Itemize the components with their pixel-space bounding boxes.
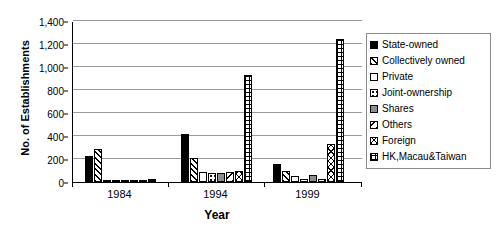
gridline (73, 20, 362, 21)
bar (318, 179, 326, 182)
bar (327, 144, 335, 182)
bar (139, 180, 147, 182)
legend-swatch-icon (370, 121, 378, 129)
y-axis-tick-mark (64, 91, 68, 92)
legend-item-1[interactable]: Collectively owned (370, 53, 488, 69)
legend-item-label: Others (382, 120, 412, 130)
legend-item-label: Shares (382, 104, 414, 114)
bar (199, 172, 207, 182)
x-axis-tick-label: 1994 (181, 188, 251, 200)
legend-swatch-icon (370, 153, 378, 161)
bar (94, 149, 102, 182)
bar-group-1994 (181, 22, 261, 182)
legend-swatch-icon (370, 105, 378, 113)
bar (300, 179, 308, 182)
bar-group-1999 (273, 22, 353, 182)
bar (226, 172, 234, 182)
bar (190, 158, 198, 182)
y-axis-tick-label: 1,000 (39, 63, 64, 74)
x-axis-title: Year (72, 208, 362, 222)
x-axis-tick-mark (168, 183, 169, 187)
y-axis-tick-label: 800 (47, 86, 64, 97)
bar (148, 179, 156, 182)
y-axis-tick-labels: 02004006008001,0001,2001,400 (26, 0, 68, 241)
legend-item-label: Foreign (382, 136, 416, 146)
bar-group-1984 (85, 22, 165, 182)
y-axis-tick-mark (64, 137, 68, 138)
bar (309, 175, 317, 182)
legend-item-label: Collectively owned (382, 56, 465, 66)
legend-item-3[interactable]: Joint-ownership (370, 85, 488, 101)
legend-item-5[interactable]: Others (370, 117, 488, 133)
legend-swatch-icon (370, 137, 378, 145)
bar (273, 164, 281, 182)
legend-swatch-icon (370, 57, 378, 65)
y-axis-tick-mark (64, 68, 68, 69)
y-axis-tick-label: 1,400 (39, 17, 64, 28)
bar (103, 180, 111, 182)
bar (244, 75, 252, 182)
plot-area (72, 22, 362, 183)
bar (217, 173, 225, 182)
legend-item-label: State-owned (382, 40, 438, 50)
bar (291, 176, 299, 182)
chart-legend: State-ownedCollectively ownedPrivateJoin… (366, 33, 491, 169)
bar (336, 39, 344, 182)
x-axis-tick-mark (264, 183, 265, 187)
bar (181, 134, 189, 182)
bar (208, 173, 216, 182)
x-axis-tick-label: 1999 (273, 188, 343, 200)
legend-item-6[interactable]: Foreign (370, 133, 488, 149)
y-axis-tick-mark (64, 183, 68, 184)
legend-item-7[interactable]: HK,Macau&Taiwan (370, 149, 488, 165)
x-axis-tick-mark (72, 183, 73, 187)
y-axis-tick-label: 600 (47, 109, 64, 120)
y-axis-tick-mark (64, 114, 68, 115)
bar (112, 180, 120, 182)
bar (235, 171, 243, 182)
y-axis-tick-label: 400 (47, 132, 64, 143)
bar (121, 180, 129, 182)
legend-swatch-icon (370, 41, 378, 49)
chart-figure: No. of Establishments 02004006008001,000… (0, 0, 496, 241)
y-axis-tick-mark (64, 22, 68, 23)
y-axis-tick-mark (64, 45, 68, 46)
legend-item-label: Private (382, 72, 413, 82)
legend-swatch-icon (370, 73, 378, 81)
legend-item-label: HK,Macau&Taiwan (382, 152, 466, 162)
x-axis-tick-mark (361, 183, 362, 187)
x-axis-tick-label: 1984 (85, 188, 155, 200)
y-axis-tick-label: 200 (47, 155, 64, 166)
legend-item-2[interactable]: Private (370, 69, 488, 85)
bar (282, 171, 290, 183)
legend-item-0[interactable]: State-owned (370, 37, 488, 53)
legend-swatch-icon (370, 89, 378, 97)
y-axis-tick-mark (64, 160, 68, 161)
bar (85, 156, 93, 182)
y-axis-tick-label: 1,200 (39, 40, 64, 51)
legend-item-4[interactable]: Shares (370, 101, 488, 117)
legend-item-label: Joint-ownership (382, 88, 452, 98)
bar (130, 180, 138, 182)
